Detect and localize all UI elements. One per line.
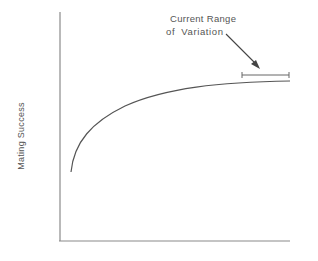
y-axis-label: Mating Success: [16, 102, 26, 170]
annotation-arrow: [226, 34, 260, 69]
annotation-line2: of Variation: [166, 26, 224, 37]
chart-figure: Current Range of Variation Mating Succes…: [0, 0, 318, 261]
annotation-line1: Current Range: [170, 13, 236, 24]
current-range-bar: [242, 72, 289, 78]
mating-success-curve: [71, 81, 290, 172]
